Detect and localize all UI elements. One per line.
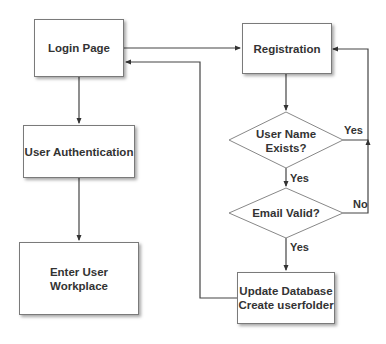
diamond-username-line1: User Name	[246, 127, 326, 141]
node-registration-label: Registration	[253, 42, 320, 56]
diamond-email-line1: Email Valid?	[246, 206, 326, 220]
edge-label-email-no: No	[353, 198, 368, 210]
node-login-page-label: Login Page	[48, 41, 110, 55]
node-update-line1: Update Database	[238, 284, 333, 298]
node-registration: Registration	[242, 23, 332, 74]
node-update-line2: Create userfolder	[238, 298, 333, 312]
node-login-page: Login Page	[34, 19, 124, 77]
node-enter-user-workplace: Enter User Workplace	[19, 242, 139, 315]
edge-label-exists-yes-right: Yes	[344, 124, 363, 136]
edge-update-to-login	[126, 62, 237, 298]
edge-label-email-yes: Yes	[290, 241, 309, 253]
node-update-database: Update Database Create userfolder	[237, 272, 335, 324]
diamond-username-line2: Exists?	[246, 141, 326, 155]
node-user-authentication-label: User Authentication	[25, 145, 134, 159]
node-workplace-line1: Enter User	[50, 265, 108, 279]
edge-label-exists-yes-down: Yes	[290, 172, 309, 184]
node-user-authentication: User Authentication	[23, 125, 135, 178]
diamond-username-exists-text: User Name Exists?	[246, 127, 326, 155]
node-workplace-line2: Workplace	[50, 279, 108, 293]
diamond-email-valid-text: Email Valid?	[246, 206, 326, 220]
